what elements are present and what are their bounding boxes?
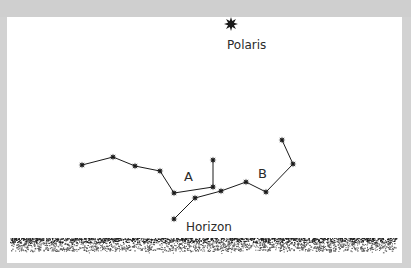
star-icon	[242, 178, 249, 185]
sky-diagram: Polaris A B Horizon	[0, 0, 411, 268]
star-icon	[262, 188, 269, 195]
horizon-band	[10, 238, 397, 254]
polaris-label: Polaris	[227, 38, 266, 52]
star-icon	[217, 187, 224, 194]
star-icon	[191, 194, 198, 201]
star-icon	[209, 156, 216, 163]
star-icon	[278, 136, 285, 143]
constellation-b-label: B	[258, 166, 267, 181]
horizon-label: Horizon	[186, 220, 232, 234]
star-icon	[131, 162, 138, 169]
star-icon	[78, 161, 85, 168]
star-icon	[289, 160, 296, 167]
star-icon	[170, 215, 177, 222]
star-icon	[209, 183, 216, 190]
constellation-a-label: A	[184, 169, 193, 184]
constellation-a-lines	[82, 157, 213, 193]
polaris-star-icon	[224, 17, 238, 31]
star-icon	[109, 153, 116, 160]
star-icon	[170, 189, 177, 196]
star-icon	[156, 167, 163, 174]
